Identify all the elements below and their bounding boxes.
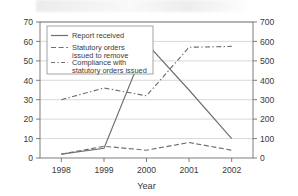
- y2-tick-label: 600: [260, 37, 275, 47]
- x-tick-label: 2000: [137, 165, 156, 175]
- legend-label-line2: statutory orders issued: [72, 66, 147, 75]
- x-tick-label: 2001: [179, 165, 198, 175]
- x-tick-label: 1998: [52, 165, 71, 175]
- series-statutory-orders-issued-to-remove: [61, 143, 231, 155]
- y2-tick-label: 200: [260, 114, 275, 124]
- y2-tick-label: 700: [260, 17, 275, 27]
- x-axis-labels: 1998 1999 2000 2001 2002: [52, 165, 242, 175]
- y2-tick-label: 300: [260, 95, 275, 105]
- y-tick-label: 0: [28, 153, 33, 163]
- right-axis-labels: 700 600 500 400 300 200 100 0: [260, 17, 275, 163]
- chart-legend: Report received Statutory orders issued …: [47, 26, 153, 75]
- x-axis-title: Year: [137, 181, 156, 191]
- scan-artifact: [36, 0, 246, 12]
- y-tick-label: 50: [23, 56, 33, 66]
- y2-tick-label: 500: [260, 56, 275, 66]
- x-tick-label: 2002: [222, 165, 241, 175]
- y-tick-label: 60: [23, 37, 33, 47]
- y2-tick-label: 100: [260, 134, 275, 144]
- y2-tick-label: 400: [260, 76, 275, 86]
- right-axis-ticks: [253, 22, 257, 158]
- y-tick-label: 30: [23, 95, 33, 105]
- left-axis-ticks: [36, 22, 40, 158]
- x-axis-ticks: [61, 158, 231, 162]
- left-axis-labels: 70 60 50 40 30 20 10 0: [23, 17, 33, 163]
- chart-container: 70 60 50 40 30 20 10 0 700 600 500 400 3…: [0, 0, 298, 196]
- line-chart: 70 60 50 40 30 20 10 0 700 600 500 400 3…: [0, 0, 298, 196]
- y-tick-label: 10: [23, 134, 33, 144]
- y-tick-label: 40: [23, 76, 33, 86]
- y-tick-label: 70: [23, 17, 33, 27]
- x-tick-label: 1999: [94, 165, 113, 175]
- y2-tick-label: 0: [260, 153, 265, 163]
- y-tick-label: 20: [23, 114, 33, 124]
- legend-label: Report received: [72, 31, 124, 40]
